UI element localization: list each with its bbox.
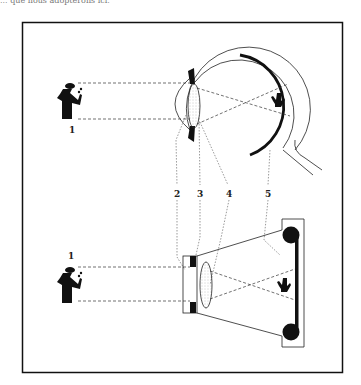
frame-border — [23, 23, 343, 373]
eye-diagram — [78, 47, 322, 175]
label-4: 4 — [226, 189, 232, 199]
label-object-top: 1 — [69, 125, 75, 135]
label-3: 3 — [197, 189, 203, 199]
camera-lens — [200, 262, 212, 308]
eye-lens — [188, 84, 200, 128]
label-5: 5 — [265, 189, 271, 199]
object-person-icon — [57, 267, 82, 303]
film-image — [277, 278, 291, 292]
eye-camera-diagram: 1 2 3 4 5 — [0, 0, 361, 385]
label-object-bottom: 1 — [68, 251, 74, 261]
object-person-icon — [57, 83, 82, 119]
label-2: 2 — [174, 189, 180, 199]
camera-diagram — [78, 219, 304, 347]
